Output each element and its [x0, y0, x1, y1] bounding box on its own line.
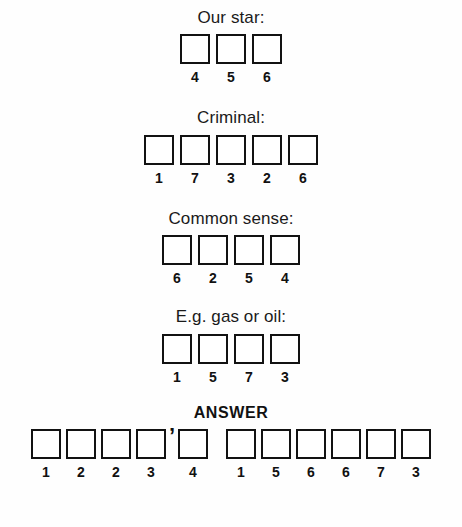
- clue3-cell: 5: [234, 235, 264, 285]
- clue3-letter-box[interactable]: [234, 235, 264, 265]
- answer-w2-number: 6: [342, 465, 350, 479]
- answer-w2-cell: 3: [401, 429, 431, 479]
- clue2-letter-box[interactable]: [216, 135, 246, 165]
- answer-w2-cell: 6: [331, 429, 361, 479]
- answer-w2-number: 5: [272, 465, 280, 479]
- clue-cells-2: 17326: [141, 135, 321, 185]
- clue-block-2: Criminal: 17326: [0, 108, 462, 184]
- clue-label-3: Common sense:: [168, 209, 293, 229]
- clue1-number: 6: [263, 70, 271, 84]
- clue2-letter-box[interactable]: [144, 135, 174, 165]
- answer-w1-number: 3: [147, 465, 155, 479]
- answer-w2-letter-box[interactable]: [296, 429, 326, 459]
- clue4-letter-box[interactable]: [270, 334, 300, 364]
- clue-cells-3: 6254: [159, 235, 303, 285]
- clue4-letter-box[interactable]: [162, 334, 192, 364]
- clue2-cell: 3: [216, 135, 246, 185]
- clue1-letter-box[interactable]: [216, 34, 246, 64]
- clue-cells-1: 456: [177, 34, 285, 84]
- clue4-number: 5: [209, 370, 217, 384]
- clue-label-4: E.g. gas or oil:: [176, 307, 286, 327]
- clue4-letter-box[interactable]: [198, 334, 228, 364]
- clue3-letter-box[interactable]: [270, 235, 300, 265]
- answer-w1-letter-box[interactable]: [31, 429, 61, 459]
- clue2-number: 2: [263, 171, 271, 185]
- clue-block-1: Our star: 456: [0, 8, 462, 84]
- clue2-letter-box[interactable]: [252, 135, 282, 165]
- answer-heading: ANSWER: [194, 404, 269, 422]
- clue4-number: 3: [281, 370, 289, 384]
- clue3-number: 2: [209, 271, 217, 285]
- answer-w1-number: 2: [112, 465, 120, 479]
- answer-word-1: 1223’4: [29, 429, 211, 479]
- answer-w2-number: 6: [307, 465, 315, 479]
- clue4-cell: 5: [198, 334, 228, 384]
- clue2-cell: 1: [144, 135, 174, 185]
- answer-w1-cell: 4: [178, 429, 208, 479]
- answer-w1-letter-box[interactable]: [101, 429, 131, 459]
- clue4-number: 1: [173, 370, 181, 384]
- answer-w2-number: 7: [377, 465, 385, 479]
- clue2-letter-box[interactable]: [180, 135, 210, 165]
- clue2-number: 7: [191, 171, 199, 185]
- clue3-cell: 6: [162, 235, 192, 285]
- clue2-letter-box[interactable]: [288, 135, 318, 165]
- answer-w2-cell: 6: [296, 429, 326, 479]
- clue4-cell: 7: [234, 334, 264, 384]
- clue1-cell: 4: [180, 34, 210, 84]
- clue4-letter-box[interactable]: [234, 334, 264, 364]
- answer-w2-cell: 7: [366, 429, 396, 479]
- clue1-number: 4: [191, 70, 199, 84]
- answer-w1-cell: 3: [136, 429, 166, 479]
- clue4-cell: 1: [162, 334, 192, 384]
- clue4-number: 7: [245, 370, 253, 384]
- answer-w1-letter-box[interactable]: [66, 429, 96, 459]
- answer-w2-cell: 5: [261, 429, 291, 479]
- clue3-number: 6: [173, 271, 181, 285]
- answer-w1-cell: 1: [31, 429, 61, 479]
- answer-w1-cell: 2: [101, 429, 131, 479]
- clue-label-2: Criminal:: [197, 108, 265, 128]
- clue2-number: 3: [227, 171, 235, 185]
- answer-w1-number: 4: [189, 465, 197, 479]
- answer-cells: 1223’4156673: [29, 429, 434, 479]
- clue3-letter-box[interactable]: [162, 235, 192, 265]
- clue1-number: 5: [227, 70, 235, 84]
- clue3-number: 5: [245, 271, 253, 285]
- clue-label-1: Our star:: [197, 8, 264, 28]
- answer-w2-letter-box[interactable]: [261, 429, 291, 459]
- clue-cells-4: 1573: [159, 334, 303, 384]
- clue1-letter-box[interactable]: [180, 34, 210, 64]
- clue4-cell: 3: [270, 334, 300, 384]
- clue3-cell: 4: [270, 235, 300, 285]
- clue2-cell: 2: [252, 135, 282, 185]
- answer-word-2: 156673: [224, 429, 434, 479]
- apostrophe-mark: ’: [169, 425, 176, 447]
- answer-w2-letter-box[interactable]: [331, 429, 361, 459]
- clue2-cell: 7: [180, 135, 210, 185]
- answer-w2-cell: 1: [226, 429, 256, 479]
- clue-block-4: E.g. gas or oil: 1573: [0, 307, 462, 383]
- clue3-letter-box[interactable]: [198, 235, 228, 265]
- clue1-cell: 5: [216, 34, 246, 84]
- clue1-letter-box[interactable]: [252, 34, 282, 64]
- answer-w2-letter-box[interactable]: [366, 429, 396, 459]
- answer-w2-letter-box[interactable]: [401, 429, 431, 459]
- answer-block: ANSWER 1223’4156673: [0, 404, 462, 479]
- clue3-cell: 2: [198, 235, 228, 285]
- clue2-cell: 6: [288, 135, 318, 185]
- clue-block-3: Common sense: 6254: [0, 209, 462, 285]
- answer-w1-letter-box[interactable]: [178, 429, 208, 459]
- answer-w1-letter-box[interactable]: [136, 429, 166, 459]
- answer-w1-number: 1: [42, 465, 50, 479]
- puzzle-root: Our star: 456 Criminal: 17326 Common sen…: [0, 0, 462, 527]
- clue1-cell: 6: [252, 34, 282, 84]
- clue2-number: 1: [155, 171, 163, 185]
- answer-w1-cell: 2: [66, 429, 96, 479]
- answer-w2-number: 3: [412, 465, 420, 479]
- answer-w1-number: 2: [77, 465, 85, 479]
- clue3-number: 4: [281, 271, 289, 285]
- answer-w2-number: 1: [237, 465, 245, 479]
- answer-w2-letter-box[interactable]: [226, 429, 256, 459]
- clue2-number: 6: [299, 171, 307, 185]
